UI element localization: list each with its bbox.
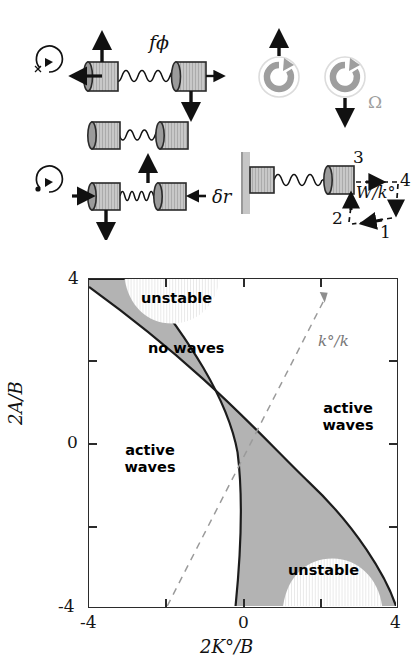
figure-root: fϕ δr Ω 3 4 2 1 W/k° [0, 0, 418, 672]
omega-label: Ω [368, 92, 382, 112]
rotor-icon-right [325, 57, 365, 97]
rotor-icon-left [259, 57, 299, 97]
cylinder-row2-right [156, 122, 188, 149]
ytick-right-minus2 [389, 526, 398, 528]
wall [242, 152, 250, 214]
work-label: W/k° [356, 183, 396, 202]
xtick-0 [243, 599, 245, 608]
ytick-label-mid: 0 [67, 432, 78, 452]
ytick-2 [88, 360, 97, 362]
phase-diagram-panel: 4 0 -4 -4 0 4 2K°/B 2A/B unstable no wav… [0, 240, 418, 672]
xtick-top-2 [320, 278, 322, 287]
cylinder-row3-left [88, 183, 120, 210]
cylinder-row2-left [88, 122, 120, 149]
rotation-out-of-page-icon [35, 166, 62, 192]
xtick-top-0 [243, 278, 245, 287]
rotation-into-page-icon [35, 46, 62, 72]
x-axis-title: 2K°/B [200, 636, 253, 657]
cylinder-wall-anchor [250, 167, 274, 193]
ytick-right-2 [389, 360, 398, 362]
xtick-minus2 [165, 599, 167, 608]
region-label-active-waves-left: active waves [113, 442, 187, 476]
delta-r-label: δr [212, 186, 231, 207]
region-label-no-waves: no waves [148, 340, 224, 357]
cylinder-row1-right [172, 62, 207, 91]
spring-row3 [120, 192, 158, 201]
cylinder-row3-right [154, 183, 186, 210]
y-axis-title: 2A/B [5, 381, 26, 425]
schematic-panel: fϕ δr Ω 3 4 2 1 W/k° [0, 0, 418, 240]
ytick-minus2 [88, 526, 97, 528]
cycle-label-4: 4 [400, 170, 411, 190]
region-label-active-waves-right: active waves [311, 400, 385, 434]
ytick-label-top: 4 [68, 268, 79, 288]
force-phi-label: fϕ [149, 31, 169, 53]
xtick-label-left: -4 [80, 612, 97, 632]
ytick-0 [88, 443, 97, 445]
cycle-label-3: 3 [353, 147, 364, 167]
cycle-label-1: 1 [380, 222, 391, 242]
cycle-label-2: 2 [332, 208, 343, 228]
ytick-label-bottom: -4 [58, 596, 75, 616]
xtick-2 [320, 599, 322, 608]
xtick-top-minus2 [165, 278, 167, 287]
xtick-label-right: 4 [390, 612, 401, 632]
k-ratio-label: k°/k [318, 332, 349, 350]
region-label-unstable-bottom: unstable [288, 562, 359, 579]
ytick-right-0 [389, 443, 398, 445]
region-label-unstable-top: unstable [141, 290, 212, 307]
xtick-label-mid: 0 [238, 612, 249, 632]
cylinder-wall-mass [324, 166, 354, 194]
schematic-svg [0, 0, 418, 240]
